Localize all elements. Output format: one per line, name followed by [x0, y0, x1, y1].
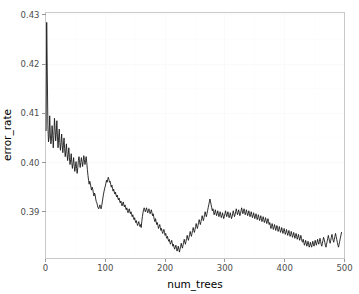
- x-tick-label: 200: [157, 263, 173, 273]
- x-tick-label: 400: [277, 263, 293, 273]
- y-tick-label: 0.41: [21, 108, 40, 118]
- y-tick-label: 0.39: [21, 207, 40, 217]
- error-rate-line-chart: 0100200300400500 0.390.400.410.420.43 nu…: [0, 0, 359, 294]
- y-tick-label: 0.42: [21, 59, 40, 69]
- y-axis-title: error_rate: [1, 109, 14, 161]
- x-tick-label: 100: [97, 263, 113, 273]
- chart-container: 0100200300400500 0.390.400.410.420.43 nu…: [0, 0, 359, 294]
- x-tick-label: 500: [336, 263, 352, 273]
- y-tick-label: 0.43: [21, 10, 40, 20]
- y-tick-label: 0.40: [21, 158, 40, 168]
- x-axis-title: num_trees: [167, 278, 222, 291]
- x-tick-label: 300: [217, 263, 233, 273]
- x-tick-label: 0: [43, 263, 48, 273]
